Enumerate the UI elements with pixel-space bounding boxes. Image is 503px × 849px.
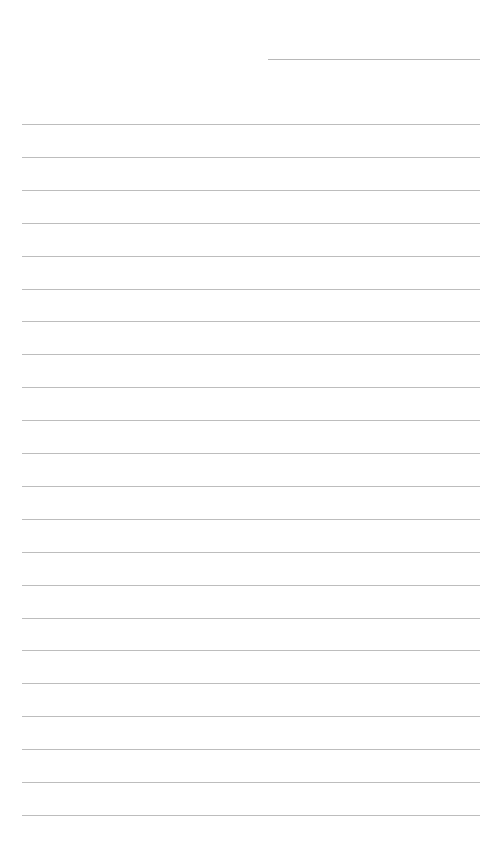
ruled-line: [22, 486, 480, 487]
ruled-line: [22, 354, 480, 355]
ruled-line: [22, 650, 480, 651]
ruled-line: [22, 157, 480, 158]
lined-paper-page: [0, 0, 503, 849]
ruled-line: [22, 716, 480, 717]
ruled-line: [22, 749, 480, 750]
ruled-line: [22, 387, 480, 388]
ruled-line: [22, 618, 480, 619]
ruled-line: [22, 124, 480, 125]
ruled-line: [22, 190, 480, 191]
ruled-line: [22, 782, 480, 783]
ruled-line: [22, 289, 480, 290]
ruled-line: [22, 683, 480, 684]
ruled-line: [22, 223, 480, 224]
ruled-line: [22, 552, 480, 553]
ruled-line: [22, 585, 480, 586]
ruled-line: [22, 256, 480, 257]
header-date-line: [268, 59, 480, 60]
ruled-line: [22, 420, 480, 421]
ruled-line: [22, 519, 480, 520]
ruled-line: [22, 815, 480, 816]
ruled-line: [22, 321, 480, 322]
ruled-line: [22, 453, 480, 454]
